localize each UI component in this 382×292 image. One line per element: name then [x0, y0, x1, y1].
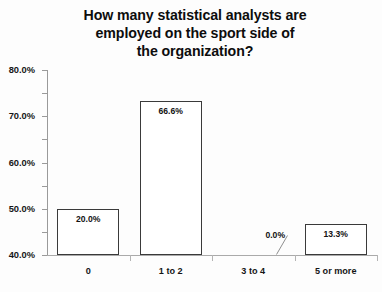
y-axis-tick: 20.0% — [42, 209, 47, 210]
bar-chart: How many statistical analysts are employ… — [0, 0, 382, 292]
x-axis-category-label: 5 or more — [315, 266, 356, 276]
bar — [140, 101, 202, 255]
x-axis-tick — [377, 255, 378, 261]
chart-title: How many statistical analysts are employ… — [50, 6, 340, 60]
x-axis-category-label: 3 to 4 — [241, 266, 265, 276]
y-axis-tick: 80.0% — [42, 70, 47, 71]
chart-title-line-3: the organization? — [50, 42, 340, 60]
y-axis-tick: 50.0% — [42, 139, 47, 140]
chart-title-line-1: How many statistical analysts are — [50, 6, 340, 24]
y-axis-tick: 60.0% — [42, 116, 47, 117]
bar-value-label: 20.0% — [76, 214, 100, 224]
x-axis-tick — [212, 255, 213, 261]
plot-area: 0.0%10.0%20.0%30.0%40.0%50.0%60.0%70.0%8… — [47, 70, 377, 255]
y-axis-tick: 10.0% — [42, 232, 47, 233]
bar-value-label: 66.6% — [159, 106, 183, 116]
y-axis-tick: 30.0% — [42, 186, 47, 187]
x-axis-category-label: 0 — [86, 266, 91, 276]
y-axis-tick-label: 80.0% — [9, 65, 35, 75]
y-axis-tick-label: 60.0% — [9, 158, 35, 168]
x-axis-category-label: 1 to 2 — [159, 266, 183, 276]
chart-title-line-2: employed on the sport side of — [50, 24, 340, 42]
y-axis-tick: 40.0% — [42, 163, 47, 164]
y-axis-tick: 0.0% — [42, 255, 47, 256]
x-axis-tick — [130, 255, 131, 261]
zero-value-leader-line — [275, 234, 289, 255]
y-axis-tick-label: 40.0% — [9, 250, 35, 260]
y-axis-tick-label: 50.0% — [9, 204, 35, 214]
bar-value-label: 13.3% — [324, 229, 348, 239]
x-axis-tick — [295, 255, 296, 261]
y-axis-line — [47, 70, 48, 256]
y-axis-tick: 70.0% — [42, 93, 47, 94]
y-axis-tick-label: 70.0% — [9, 111, 35, 121]
